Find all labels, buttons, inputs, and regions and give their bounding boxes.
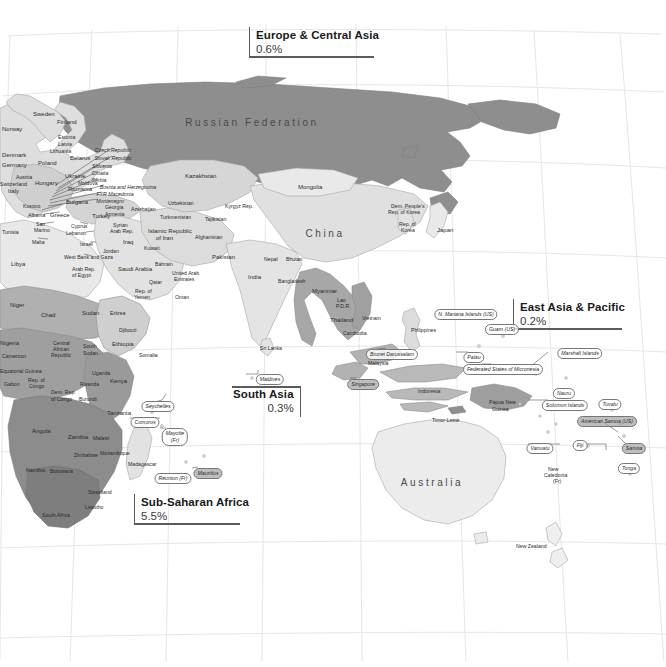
- country-label: Romania: [68, 186, 92, 192]
- island-label: Samoa: [622, 443, 646, 454]
- country-label: Arab Rep.: [110, 228, 133, 234]
- island-label: Montenegro: [96, 198, 124, 204]
- callout-east-asia-pacific: East Asia & Pacific 0.2%: [513, 299, 625, 330]
- country-label: Mongolia: [298, 184, 322, 190]
- country-label: Djibouti: [119, 327, 136, 333]
- world-map-graphic: [0, 0, 666, 667]
- country-label: Switzerland: [0, 181, 27, 187]
- country-label: Congo: [29, 383, 44, 389]
- island-label: Fiji: [573, 440, 588, 451]
- country-label: Somalia: [139, 352, 158, 358]
- island-label: Nauru: [553, 388, 575, 399]
- callout-value: 5.5%: [141, 509, 249, 523]
- country-label: Uzbekistan: [168, 200, 194, 206]
- country-label: Italy: [8, 188, 19, 194]
- island-label: Tuvalu: [598, 399, 621, 410]
- country-label: Turkmenistan: [160, 214, 191, 220]
- country-label: Israel: [80, 241, 93, 247]
- country-label: Kyrgyz Rep.: [225, 203, 253, 209]
- country-label: Japan: [437, 227, 453, 233]
- callout-value: 0.6%: [256, 42, 379, 56]
- country-label: Poland: [38, 160, 57, 166]
- country-label: Bangladesh: [278, 278, 305, 284]
- country-label: Lesotho: [85, 504, 103, 510]
- country-label: Marino: [34, 227, 50, 233]
- callout-title: East Asia & Pacific: [520, 300, 625, 314]
- country-label: Tanzania: [107, 410, 131, 416]
- island-label: Bosnia and Herzegovina: [100, 184, 157, 190]
- country-label: Timor-Leste: [432, 417, 459, 423]
- island-label: Slovak Republic: [94, 155, 131, 161]
- country-label: Uganda: [92, 370, 110, 376]
- country-label: Cameroon: [2, 353, 26, 359]
- island-label: Czech Republic: [95, 147, 131, 153]
- country-label: Cyprus: [71, 223, 87, 229]
- country-label: Iraq: [123, 239, 133, 245]
- country-label: Georgia: [105, 204, 123, 210]
- island-label: Slovenia: [92, 163, 112, 169]
- country-label: Pakistan: [212, 254, 235, 260]
- country-label: Papua New: [489, 399, 516, 405]
- country-label: Chad: [41, 312, 55, 318]
- map-canvas: Russian Federation China Australia Europ…: [0, 0, 666, 667]
- country-label: Nepal: [264, 256, 278, 262]
- country-label: Sweden: [33, 111, 55, 117]
- country-label: Bhutan: [286, 256, 302, 262]
- country-label: Cambodia: [343, 330, 367, 336]
- country-label: Philippines: [411, 327, 436, 333]
- island-label: Federated States of Micronesia: [463, 364, 543, 375]
- island-label: Palau: [463, 352, 484, 363]
- country-label: Germany: [2, 162, 27, 168]
- callout-sub-saharan-africa: Sub-Saharan Africa 5.5%: [134, 494, 249, 525]
- country-label: Islamic Republic: [148, 228, 192, 234]
- country-label: Malta: [32, 239, 45, 245]
- country-label: Norway: [2, 126, 22, 132]
- country-label: Malaysia: [368, 360, 388, 366]
- region-label-australia: Australia: [401, 477, 463, 488]
- island-label: N. Mariana Islands (US): [434, 309, 497, 320]
- island-label: Singapore: [347, 379, 379, 390]
- island-label: FYR Macedonia: [96, 191, 133, 197]
- country-label: Greece: [50, 212, 70, 218]
- country-label: Austria: [16, 174, 32, 180]
- country-label: Latvia: [58, 141, 72, 147]
- country-label: West Bank and Gaza: [64, 254, 113, 260]
- country-label: of Egypt: [72, 272, 91, 278]
- callout-title: Europe & Central Asia: [256, 28, 379, 42]
- country-label: Indonesia: [418, 388, 441, 394]
- callout-south-asia: South Asia 0.3%: [233, 386, 301, 417]
- island-label: Tonga: [618, 463, 640, 474]
- country-label: South Africa: [42, 512, 70, 518]
- island-label: Guam (US): [485, 324, 519, 335]
- country-label: Nigeria: [0, 340, 19, 346]
- country-label: Kazakhstan: [185, 173, 216, 179]
- country-label: Belarus: [70, 155, 90, 161]
- country-label: (Fr): [553, 478, 561, 484]
- country-label: Ethiopia: [112, 341, 134, 347]
- country-label: Kuwait: [144, 245, 160, 251]
- country-label: Ukraine: [65, 173, 86, 179]
- island-label: American Samoa (US): [577, 416, 637, 427]
- country-label: Azerbaijan: [131, 206, 156, 212]
- country-label: Madagascar: [128, 461, 157, 467]
- island-label: Seychelles: [141, 401, 174, 412]
- country-label: Niger: [10, 302, 24, 308]
- country-label: Tunisia: [2, 229, 19, 235]
- callout-europe-central-asia: Europe & Central Asia 0.6%: [249, 27, 379, 58]
- country-label: Vietnam: [362, 315, 381, 321]
- country-label: Bulgaria: [66, 199, 88, 205]
- country-label: Equatorial Guinea: [0, 368, 42, 374]
- country-label: Republic: [51, 352, 71, 358]
- country-label: Sri Lanka: [260, 345, 282, 351]
- country-label: P.D.R.: [336, 303, 351, 309]
- country-label: Denmark: [2, 152, 26, 158]
- callout-value: 0.3%: [233, 401, 294, 415]
- country-label: Gabon: [4, 381, 20, 387]
- country-label: South: [83, 343, 97, 349]
- island-label: Serbia: [92, 177, 107, 183]
- island-label: Mauritius: [193, 468, 222, 479]
- island-label: Maldives: [256, 374, 284, 385]
- country-label: Afghanistan: [195, 234, 222, 240]
- country-label: Finland: [57, 119, 77, 125]
- country-label: Libya: [11, 261, 25, 267]
